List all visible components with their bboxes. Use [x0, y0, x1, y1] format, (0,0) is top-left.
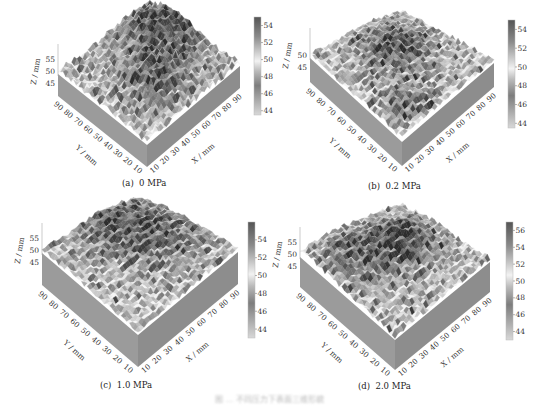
colorbar-tick-label: 46 [258, 307, 268, 316]
y-tick-label: 30 [100, 344, 113, 357]
z-tick-label: 45 [297, 63, 307, 72]
subplot-b: 4550Z / mm908070605040302010Y / mm102030… [270, 0, 539, 200]
y-tick-label: 10 [379, 365, 392, 378]
colorbar-tick-label: 50 [516, 277, 526, 286]
y-tick-label: 60 [326, 319, 339, 332]
colorbar-tick-label: 44 [518, 119, 528, 128]
z-tick-label: 55 [29, 234, 39, 243]
y-axis-label: Y / mm [318, 340, 344, 365]
y-tick-label: 50 [79, 326, 92, 339]
y-axis-label: Y / mm [73, 142, 99, 167]
colorbar-tick-label: 52 [518, 44, 528, 53]
z-axis-label: Z / mm [271, 241, 285, 269]
y-tick-label: 40 [101, 139, 114, 152]
y-tick-label: 80 [62, 107, 75, 120]
x-axis-label: X / mm [445, 140, 471, 164]
y-tick-label: 50 [92, 131, 105, 144]
caption-c: (c) 1.0 MPa [100, 380, 152, 390]
z-tick-label: 50 [297, 51, 307, 60]
y-tick-label: 10 [122, 362, 135, 375]
y-tick-label: 60 [82, 123, 95, 136]
y-tick-label: 70 [315, 310, 328, 323]
z-axis-label: Z / mm [29, 58, 43, 86]
caption-b: (b) 0.2 MPa [368, 181, 421, 191]
subplot-c: 455055Z / mm908070605040302010Y / mm1020… [0, 200, 270, 390]
colorbar-tick-label: 50 [518, 63, 528, 72]
y-tick-label: 20 [376, 152, 389, 165]
colorbar-tick-label: 54 [258, 235, 268, 244]
colorbar [508, 20, 515, 128]
z-tick-label: 55 [287, 238, 297, 247]
colorbar-tick-label: 50 [258, 271, 268, 280]
surface-plot-a: 455055Z / mm908070605040302010Y / mm1020… [0, 0, 270, 200]
colorbar-tick-label: 56 [516, 226, 526, 235]
y-tick-label: 50 [337, 328, 350, 341]
z-tick-label: 50 [29, 246, 39, 255]
caption-a: (a) 0 MPa [122, 178, 166, 188]
colorbar-tick-label: 46 [516, 310, 526, 319]
y-tick-label: 30 [358, 346, 371, 359]
subplot-a: 455055Z / mm908070605040302010Y / mm1020… [0, 0, 270, 200]
y-tick-label: 70 [72, 115, 85, 128]
colorbar-tick-label: 48 [258, 289, 268, 298]
y-tick-label: 80 [314, 96, 327, 109]
colorbar-tick-label: 48 [516, 293, 526, 302]
subplot-d: 455055Z / mm908070605040302010Y / mm1020… [270, 200, 539, 390]
y-tick-label: 80 [47, 298, 60, 311]
y-axis-label: Y / mm [61, 337, 87, 362]
z-axis-label: Z / mm [13, 237, 27, 265]
y-tick-label: 40 [347, 337, 360, 350]
z-tick-label: 50 [287, 250, 297, 259]
colorbar [506, 222, 513, 340]
y-tick-label: 90 [294, 291, 307, 304]
y-tick-label: 10 [131, 163, 144, 176]
colorbar [254, 17, 261, 115]
colorbar-tick-label: 54 [516, 243, 526, 252]
y-tick-label: 20 [111, 353, 124, 366]
z-tick-label: 55 [45, 55, 55, 64]
y-tick-label: 90 [304, 86, 317, 99]
x-axis-label: X / mm [190, 141, 216, 165]
y-tick-label: 90 [52, 99, 65, 112]
surface-plot-c: 455055Z / mm908070605040302010Y / mm1020… [0, 200, 270, 390]
y-tick-label: 20 [121, 155, 134, 168]
y-tick-label: 30 [365, 142, 378, 155]
y-tick-label: 70 [58, 307, 71, 320]
colorbar-tick-label: 52 [516, 260, 526, 269]
z-tick-label: 45 [45, 79, 55, 88]
colorbar-tick-label: 44 [516, 327, 526, 336]
y-tick-label: 60 [335, 114, 348, 127]
y-tick-label: 90 [36, 289, 49, 302]
x-axis-label: X / mm [439, 345, 465, 369]
y-tick-label: 50 [345, 124, 358, 137]
z-tick-label: 45 [29, 258, 39, 267]
z-tick-label: 50 [45, 67, 55, 76]
y-tick-label: 40 [90, 335, 103, 348]
y-tick-label: 80 [305, 300, 318, 313]
colorbar-tick-label: 48 [518, 81, 528, 90]
y-tick-label: 60 [68, 316, 81, 329]
surface-plot-d: 455055Z / mm908070605040302010Y / mm1020… [270, 200, 539, 390]
colorbar [248, 222, 255, 338]
z-tick-label: 45 [287, 262, 297, 271]
colorbar-tick-label: 52 [258, 253, 268, 262]
caption-d: (d) 2.0 MPa [358, 381, 411, 391]
y-axis-label: Y / mm [327, 135, 353, 160]
figure-caption: 图 ... 不同压力下表面三维形貌 [0, 393, 539, 404]
y-tick-label: 40 [355, 133, 368, 146]
surface-plot-b: 4550Z / mm908070605040302010Y / mm102030… [270, 0, 539, 200]
z-axis-label: Z / mm [281, 42, 295, 70]
x-axis-label: X / mm [184, 340, 210, 364]
y-tick-label: 20 [368, 356, 381, 369]
colorbar-tick-label: 44 [258, 325, 268, 334]
y-tick-label: 30 [111, 147, 124, 160]
colorbar-tick-label: 54 [518, 25, 528, 34]
y-tick-label: 10 [386, 161, 399, 174]
colorbar-tick-label: 46 [518, 100, 528, 109]
y-tick-label: 70 [325, 105, 338, 118]
